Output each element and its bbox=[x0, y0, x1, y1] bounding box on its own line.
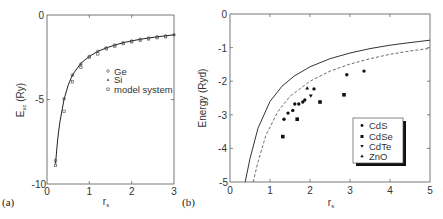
chart-b-xtick-2: 2 bbox=[307, 185, 313, 196]
chart-b-ytick-neg3: -3 bbox=[218, 110, 227, 121]
chart-a-frame bbox=[47, 15, 174, 184]
chart-a-ylabel: Exc (Ry) bbox=[15, 83, 27, 117]
legend-cdse-marker bbox=[361, 135, 364, 138]
chart-b-xtick-1: 1 bbox=[267, 185, 273, 196]
chart-a-xtick-1: 1 bbox=[87, 186, 93, 197]
figure: 0 1 2 3 0 -5 -10 rs Exc (Ry) Ge Si mod bbox=[0, 0, 443, 219]
legend-cds-label: CdS bbox=[369, 120, 387, 131]
chart-b-ytick-0: 0 bbox=[221, 9, 227, 20]
chart-b-xtick-5: 5 bbox=[427, 185, 433, 196]
chart-a-xticks bbox=[47, 15, 174, 184]
chart-b-xtick-0: 0 bbox=[227, 185, 233, 196]
chart-a-xtick-3: 3 bbox=[171, 186, 177, 197]
chart-a-ge-markers bbox=[54, 34, 175, 162]
chart-b-cdse-markers bbox=[281, 93, 346, 138]
legend-si-marker bbox=[107, 79, 110, 81]
chart-a-xtick-2: 2 bbox=[129, 186, 135, 197]
chart-a-curve bbox=[56, 35, 175, 164]
chart-b-zno-marker bbox=[305, 86, 309, 89]
legend-model-marker bbox=[107, 88, 109, 90]
chart-b-legend: CdS CdSe CdTe ZnO bbox=[353, 118, 406, 166]
chart-b-ytick-neg1: -1 bbox=[218, 43, 227, 54]
chart-a-si-markers bbox=[54, 34, 175, 163]
panel-b-label: (b) bbox=[182, 196, 195, 209]
legend-ge-marker bbox=[107, 70, 110, 73]
chart-b-xtick-3: 3 bbox=[347, 185, 353, 196]
panel-a-label: (a) bbox=[2, 196, 15, 209]
chart-b-ylabel: Energy (Ryd) bbox=[197, 69, 208, 128]
chart-a-ytick-neg5: -5 bbox=[35, 94, 44, 105]
chart-b-ytick-neg5: -5 bbox=[219, 177, 228, 188]
chart-a: 0 1 2 3 0 -5 -10 rs Exc (Ry) Ge Si mod bbox=[15, 10, 177, 208]
chart-b-cds-markers bbox=[282, 69, 365, 121]
chart-b-ytick-neg2: -2 bbox=[218, 76, 227, 87]
chart-a-legend: Ge Si model system bbox=[107, 66, 173, 95]
chart-a-model-markers bbox=[54, 36, 166, 167]
legend-cds-marker bbox=[361, 124, 364, 127]
chart-b-ytick-neg4: -4 bbox=[218, 143, 227, 154]
legend-model-label: model system bbox=[114, 84, 173, 95]
chart-a-xlabel: rs bbox=[103, 196, 109, 208]
chart-b-xlabel: rs bbox=[328, 197, 334, 209]
chart-b-xtick-4: 4 bbox=[387, 185, 393, 196]
legend-zno-label: ZnO bbox=[369, 151, 387, 162]
chart-a-ytick-0: 0 bbox=[38, 10, 44, 21]
chart-b-cdte-marker bbox=[309, 95, 313, 98]
chart-b: 0 1 2 3 4 5 0 -1 -2 -3 -4 -5 rs Energy (… bbox=[197, 9, 433, 209]
chart-a-ytick-neg10: -10 bbox=[32, 179, 47, 190]
